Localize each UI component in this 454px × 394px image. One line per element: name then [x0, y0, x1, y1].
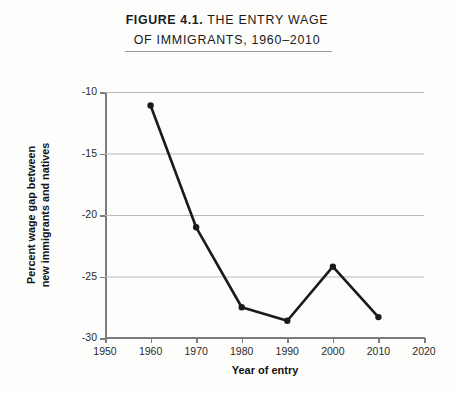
x-axis-tick-label: 2000 [310, 345, 356, 357]
y-axis-title: Percent wage gap between new immigrants … [16, 92, 60, 338]
y-axis-title-line-2: new immigrants and natives [39, 143, 51, 288]
y-axis-tick-label: -25 [57, 270, 97, 282]
y-axis-tick-mark [100, 154, 105, 156]
figure-number-label: FIGURE 4.1. [126, 13, 204, 27]
data-point [193, 224, 199, 230]
data-point-group [147, 102, 381, 324]
figure-title: FIGURE 4.1. THE ENTRY WAGE OF IMMIGRANTS… [0, 10, 454, 50]
y-axis-tick-mark [100, 277, 105, 279]
y-axis-title-line-1: Percent wage gap between [25, 146, 37, 284]
data-point [330, 263, 336, 269]
x-axis-tick-label: 1970 [173, 345, 219, 357]
data-point [375, 314, 381, 320]
data-point [284, 318, 290, 324]
x-axis-tick-mark [378, 338, 380, 343]
x-axis-tick-mark [287, 338, 289, 343]
data-point [239, 304, 245, 310]
x-axis-tick-label: 1950 [82, 345, 128, 357]
x-axis-tick-mark [333, 338, 335, 343]
y-axis-tick-label: -15 [57, 147, 97, 159]
x-axis-tick-label: 2010 [355, 345, 401, 357]
line-series-layer [105, 92, 424, 338]
figure-title-line-2: OF IMMIGRANTS, 1960–2010 [0, 30, 454, 50]
x-axis-tick-label: 2020 [401, 345, 447, 357]
x-axis-tick-label: 1990 [264, 345, 310, 357]
y-axis-tick-mark [100, 92, 105, 94]
x-axis-tick-mark [424, 338, 426, 343]
x-axis-tick-mark [105, 338, 107, 343]
y-axis-tick-label: -20 [57, 208, 97, 220]
data-point [147, 102, 153, 108]
y-axis-title-text: Percent wage gap between new immigrants … [24, 143, 52, 288]
y-axis-tick-label: -30 [57, 331, 97, 343]
figure-title-text-part-1: THE ENTRY WAGE [207, 13, 328, 27]
x-axis-tick-mark [242, 338, 244, 343]
plot-area [105, 92, 424, 337]
x-axis-tick-label: 1960 [128, 345, 174, 357]
y-axis-tick-mark [100, 215, 105, 217]
x-axis-tick-label: 1980 [219, 345, 265, 357]
x-axis-tick-mark [151, 338, 153, 343]
gridline-group [105, 93, 424, 278]
x-axis-tick-mark [196, 338, 198, 343]
x-axis-title: Year of entry [105, 364, 425, 376]
figure-container: FIGURE 4.1. THE ENTRY WAGE OF IMMIGRANTS… [0, 0, 454, 394]
title-divider [125, 51, 332, 52]
figure-title-line-1: FIGURE 4.1. THE ENTRY WAGE [0, 10, 454, 30]
entry-wage-line [151, 106, 379, 321]
y-axis-tick-label: -10 [57, 85, 97, 97]
